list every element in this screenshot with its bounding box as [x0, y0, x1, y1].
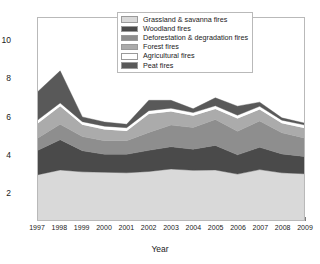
legend-item: Grassland & savanna fires [121, 15, 248, 24]
legend-item: Peat fires [121, 61, 248, 70]
legend-swatch-icon [121, 62, 138, 69]
legend-item-label: Woodland fires [143, 25, 191, 33]
legend-swatch-icon [121, 44, 138, 51]
legend-item-label: Peat fires [143, 62, 173, 70]
y-tick-label: 8 [0, 74, 11, 82]
legend-swatch-icon [121, 26, 138, 33]
legend-swatch-icon [121, 35, 138, 42]
legend-item-label: Forest fires [143, 43, 179, 51]
legend-item-label: Grassland & savanna fires [143, 16, 227, 24]
legend-item-label: Agricultural fires [143, 52, 195, 60]
legend-item-label: Deforestation & degradation fires [143, 34, 248, 42]
y-tick-label: 10 [0, 36, 11, 44]
legend-item: Woodland fires [121, 24, 248, 33]
x-tick-mark [305, 217, 306, 221]
legend-item: Agricultural fires [121, 52, 248, 61]
x-axis-title: Year [0, 244, 320, 254]
legend-swatch-icon [121, 53, 138, 60]
y-tick-label: 4 [0, 151, 11, 159]
area-series [38, 169, 304, 220]
figure-root: Fire emissions (Gt CO2 year−1) 246810 19… [0, 0, 320, 264]
y-tick-label: 2 [0, 189, 11, 197]
y-tick-label: 6 [0, 113, 11, 121]
legend-item: Deforestation & degradation fires [121, 33, 248, 42]
legend-swatch-icon [121, 16, 138, 23]
x-tick-label: 2009 [290, 224, 320, 232]
legend: Grassland & savanna firesWoodland firesD… [117, 12, 253, 73]
